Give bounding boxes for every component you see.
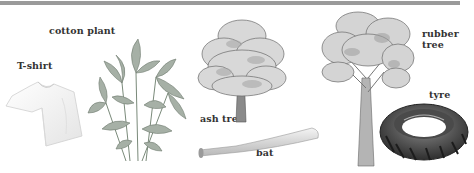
tshirt-label: T-shirt	[17, 60, 52, 71]
baseball-bat-icon	[196, 126, 320, 160]
tyre-label: tyre	[429, 89, 450, 100]
rubber-tree-label-line1: rubber	[422, 28, 459, 39]
cotton-plant-icon	[86, 33, 192, 163]
ash-tree-icon	[194, 14, 290, 124]
tyre-icon	[378, 100, 470, 162]
illustration-canvas: cotton plant T-shirt ash tree bat rubber…	[0, 0, 474, 173]
tshirt-icon	[2, 78, 88, 148]
rubber-tree-label-line2: tree	[422, 39, 444, 50]
header-bar	[0, 1, 460, 5]
